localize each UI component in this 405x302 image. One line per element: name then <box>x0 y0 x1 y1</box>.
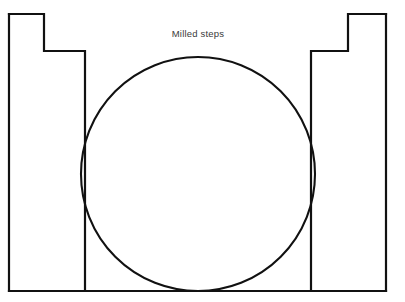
technical-drawing-canvas: Milled steps <box>0 0 405 302</box>
drawing-background <box>0 0 405 302</box>
milled-steps-diagram: Milled steps <box>0 0 405 302</box>
diagram-caption: Milled steps <box>172 28 225 39</box>
